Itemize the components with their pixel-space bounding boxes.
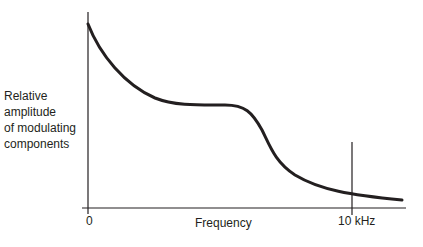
x-tick-origin: 0 — [86, 214, 93, 228]
x-axis-title: Frequency — [195, 216, 252, 230]
x-tick-10khz: 10 kHz — [338, 214, 375, 228]
amplitude-curve — [88, 24, 402, 200]
frequency-chart — [0, 0, 423, 247]
